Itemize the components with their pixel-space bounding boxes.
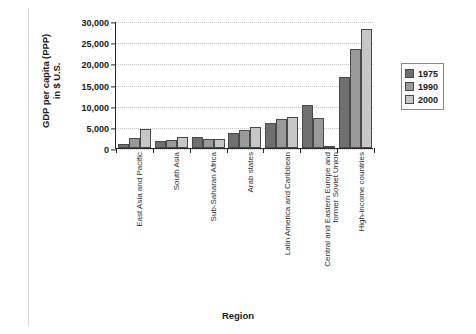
legend-label: 2000 — [418, 95, 438, 105]
x-axis-category-label-line: High-income countries — [358, 152, 366, 282]
y-axis-tick-label: 25,000 — [81, 39, 109, 49]
bar — [276, 119, 287, 148]
x-axis-category-label: South Asia — [173, 152, 189, 282]
x-axis-category-label-line: South Asia — [173, 152, 181, 282]
legend-label: 1975 — [418, 69, 438, 79]
bar-group — [337, 22, 374, 148]
plot-area: 05,00010,00015,00020,00025,00030,000 — [115, 22, 373, 149]
bar — [192, 137, 203, 148]
x-axis-tick — [374, 148, 375, 153]
bar-group — [116, 22, 153, 148]
x-axis-category-label: Central and Eastern Europe andformer Sov… — [324, 152, 340, 282]
x-axis-category-label-line: Sub-Saharan Africa — [210, 152, 218, 282]
bar — [166, 140, 177, 148]
bar — [214, 139, 225, 148]
bar — [302, 105, 313, 148]
x-axis-category-labels: East Asia and PacificSouth AsiaSub-Sahar… — [115, 152, 373, 282]
y-axis-title: GDP per capita (PPP) in $ U.S. — [34, 16, 68, 146]
bar — [129, 138, 140, 148]
bar — [228, 133, 239, 148]
bar — [287, 117, 298, 148]
legend-item[interactable]: 1975 — [405, 67, 438, 80]
legend-swatch-icon — [405, 82, 414, 91]
bar — [361, 29, 372, 148]
x-axis-title: Region — [0, 310, 476, 321]
bar — [350, 49, 361, 148]
bar — [140, 129, 151, 148]
y-axis-tick-label: 10,000 — [81, 103, 109, 113]
bar-group — [227, 22, 264, 148]
legend-item[interactable]: 1990 — [405, 80, 438, 93]
x-axis-category-label-line: East Asia and Pacific — [136, 152, 144, 282]
bar-group — [153, 22, 190, 148]
left-margin-rule — [28, 8, 29, 326]
y-axis-title-line-2: in $ U.S. — [51, 34, 62, 128]
x-axis-category-label-line: Latin America and Caribbean — [284, 152, 292, 282]
bar-group — [300, 22, 337, 148]
legend-swatch-icon — [405, 95, 414, 104]
bar — [250, 127, 261, 148]
x-axis-category-label-line: former Soviet Union — [332, 152, 340, 282]
legend-label: 1990 — [418, 82, 438, 92]
bar — [155, 141, 166, 148]
chart-figure: GDP per capita (PPP) in $ U.S. 05,00010,… — [0, 0, 476, 334]
y-axis-tick-label: 0 — [104, 145, 109, 155]
bar — [203, 139, 214, 148]
bar — [265, 123, 276, 148]
x-axis-category-label: High-income countries — [358, 152, 374, 282]
bar — [239, 130, 250, 148]
x-axis-category-label: Arab states — [247, 152, 263, 282]
legend: 197519902000 — [401, 63, 444, 110]
bar — [177, 137, 188, 148]
y-axis-tick-label: 30,000 — [81, 18, 109, 28]
legend-item[interactable]: 2000 — [405, 93, 438, 106]
y-axis-title-line-1: GDP per capita (PPP) — [40, 34, 51, 128]
legend-swatch-icon — [405, 69, 414, 78]
x-axis-category-label-line: Arab states — [247, 152, 255, 282]
y-axis-tick-label: 5,000 — [86, 124, 109, 134]
x-axis-category-label: Latin America and Caribbean — [284, 152, 300, 282]
bar — [339, 77, 350, 148]
bar-groups — [116, 22, 373, 148]
bar — [324, 146, 335, 148]
gridline: 0 — [116, 149, 373, 150]
bar-group — [263, 22, 300, 148]
x-axis-category-label: East Asia and Pacific — [136, 152, 152, 282]
y-axis-tick-label: 15,000 — [81, 82, 109, 92]
y-axis-tick-label: 20,000 — [81, 60, 109, 70]
bar — [313, 118, 324, 148]
bar-group — [190, 22, 227, 148]
bar — [118, 144, 129, 148]
x-axis-category-label: Sub-Saharan Africa — [210, 152, 226, 282]
